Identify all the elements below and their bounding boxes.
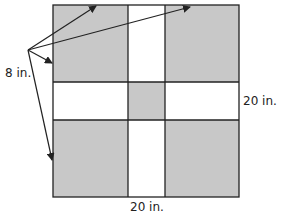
- corner-side-label: 8 in.: [5, 66, 31, 80]
- right-side-label: 20 in.: [243, 94, 277, 108]
- corner-square-top-right: [165, 5, 239, 82]
- diagram: 8 in. 20 in. 20 in.: [0, 0, 281, 218]
- corner-square-bottom-right: [165, 120, 239, 197]
- arrow-left-bottom: [28, 50, 52, 160]
- corner-square-bottom-left: [53, 120, 128, 197]
- bottom-side-label: 20 in.: [130, 200, 164, 214]
- center-square: [128, 82, 165, 120]
- corner-square-top-left: [53, 5, 128, 82]
- diagram-svg: [0, 0, 281, 218]
- arrow-left-top: [28, 50, 52, 63]
